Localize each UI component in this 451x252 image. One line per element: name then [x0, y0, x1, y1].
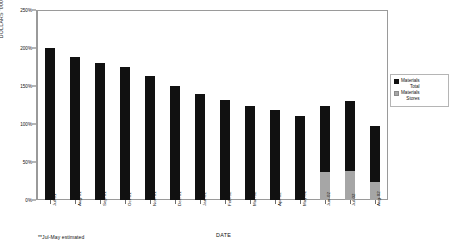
bar — [70, 57, 80, 200]
y-axis-tick-label: 50% — [23, 160, 32, 165]
bar — [295, 116, 305, 200]
x-axis-tick-label: Jun-02 — [326, 192, 331, 206]
bar-segment-materials-total — [220, 100, 230, 200]
bar-segment-materials-total — [95, 63, 105, 200]
bar — [245, 106, 255, 200]
y-axis-tick-label: 0% — [25, 198, 32, 203]
chart-legend: Materials Total Materials Stores — [390, 74, 449, 107]
legend-item-materials-total: Materials Total — [394, 78, 446, 89]
x-axis-tick-label: Aug-02 — [376, 191, 381, 206]
x-axis-tick-label: Dec-01 — [177, 191, 182, 206]
bar-segment-materials-total — [345, 101, 355, 171]
x-axis-tick-label: Jul-02 — [351, 193, 356, 206]
x-axis-tick-mark — [250, 200, 251, 204]
bar — [320, 106, 330, 200]
bar-segment-materials-total — [245, 106, 255, 200]
legend-label-materials-stores: Materials Stores — [401, 90, 420, 101]
x-axis-title: DATE — [216, 232, 231, 238]
x-axis-tick-label: Feb-02 — [227, 191, 232, 206]
gray-square-icon — [394, 91, 399, 96]
bar-segment-materials-total — [195, 94, 205, 200]
y-axis-tick-label: 100% — [20, 122, 32, 127]
bar — [345, 101, 355, 200]
bar — [270, 110, 280, 200]
bar — [45, 48, 55, 200]
bar-segment-materials-total — [170, 86, 180, 200]
x-axis-tick-label: Sep-01 — [102, 191, 107, 206]
bar — [95, 63, 105, 200]
bar-segment-materials-total — [270, 110, 280, 200]
y-axis-tick-label: 150% — [20, 84, 32, 89]
x-axis-tick-mark — [300, 200, 301, 204]
x-axis-tick-mark — [175, 200, 176, 204]
legend-item-materials-stores: Materials Stores — [394, 90, 446, 101]
x-axis-tick-mark — [200, 200, 201, 204]
bar-segment-materials-total — [145, 76, 155, 200]
bar — [120, 67, 130, 200]
x-axis-tick-label: Nov-01 — [152, 191, 157, 206]
x-axis-tick-label: Oct-01 — [127, 192, 132, 206]
bar-segment-materials-total — [370, 126, 380, 182]
bar — [370, 126, 380, 200]
bar — [170, 86, 180, 200]
bar-chart: DOLLARS '000 250%200%150%100%50%0% DATE … — [0, 0, 451, 252]
x-axis-tick-label: Jan-02 — [202, 192, 207, 206]
y-axis-tick-label: 200% — [20, 46, 32, 51]
x-axis-tick-label: Aug-01 — [77, 191, 82, 206]
bars-area — [38, 11, 387, 200]
x-axis-tick-label: Jul-01 — [52, 193, 57, 206]
x-axis-tick-label: May-02 — [302, 191, 307, 206]
bar-segment-materials-total — [45, 48, 55, 200]
x-axis-tick-label: Mar-02 — [252, 191, 257, 206]
bar — [220, 100, 230, 200]
bar-segment-materials-total — [70, 57, 80, 200]
bar — [145, 76, 155, 200]
x-axis-tick-label: Apr-02 — [277, 192, 282, 206]
bar-segment-materials-total — [295, 116, 305, 200]
bar — [195, 94, 205, 200]
bar-segment-materials-total — [320, 106, 330, 172]
x-axis-tick-mark — [225, 200, 226, 204]
y-axis: 250%200%150%100%50%0% — [0, 0, 36, 200]
y-axis-tick-label: 250% — [20, 8, 32, 13]
chart-footnote: **Jul-May estimated — [38, 234, 84, 240]
bar-segment-materials-total — [120, 67, 130, 200]
legend-label-materials-total: Materials Total — [401, 78, 420, 89]
x-axis-tick-mark — [275, 200, 276, 204]
black-square-icon — [394, 79, 399, 84]
